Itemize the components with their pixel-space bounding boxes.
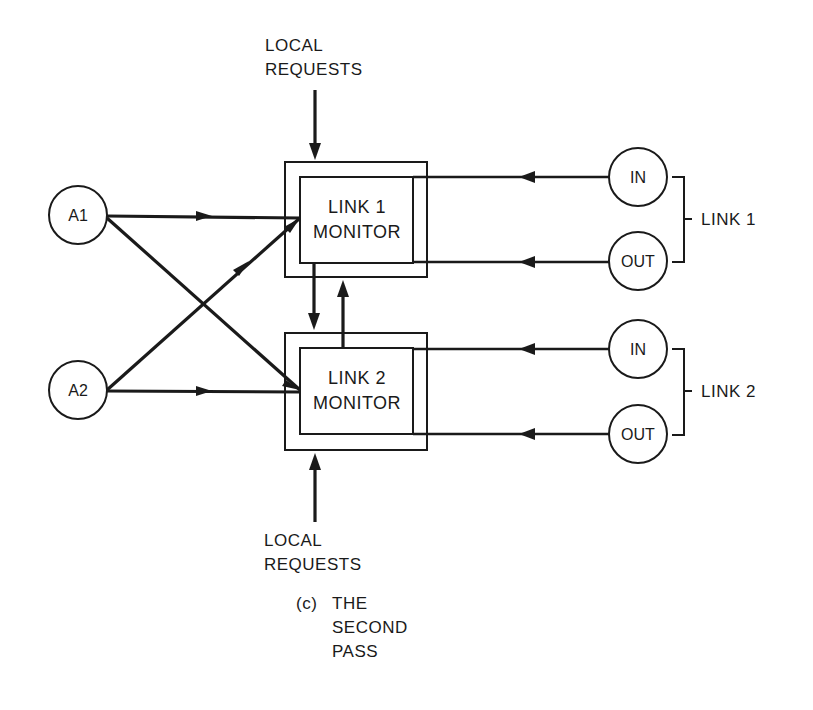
agent-a1-node: A1 <box>49 186 107 244</box>
svg-text:LINK 1: LINK 1 <box>701 210 756 229</box>
svg-text:LOCAL: LOCAL <box>265 36 323 55</box>
svg-text:A1: A1 <box>68 207 88 224</box>
link1-in-node: IN <box>609 148 667 206</box>
svg-text:REQUESTS: REQUESTS <box>264 555 362 574</box>
local-requests-bottom-label: LOCAL REQUESTS <box>264 531 362 574</box>
link2-bracket: LINK 2 <box>672 349 756 435</box>
figure-caption: (c) THE SECOND PASS <box>296 594 408 661</box>
svg-text:LOCAL: LOCAL <box>264 531 322 550</box>
edge-link1-out-to-monitor <box>413 256 609 268</box>
svg-text:PASS: PASS <box>332 642 378 661</box>
link1-bracket: LINK 1 <box>672 177 756 262</box>
local-requests-top-arrow <box>309 90 321 160</box>
svg-text:MONITOR: MONITOR <box>313 393 401 413</box>
svg-text:(c): (c) <box>296 594 317 613</box>
link2-monitor-box: LINK 2 MONITOR <box>285 333 427 450</box>
local-requests-bottom-arrow <box>309 453 321 522</box>
edge-link2-in-to-monitor <box>413 343 609 355</box>
edge-link2-out-to-monitor <box>413 428 609 440</box>
monitor2-to-monitor1-arrow <box>337 280 349 348</box>
link2-out-node: OUT <box>609 405 667 463</box>
svg-text:OUT: OUT <box>621 426 655 443</box>
svg-text:THE: THE <box>332 594 368 613</box>
edge-a1-to-link1 <box>107 211 300 221</box>
svg-text:IN: IN <box>630 169 646 186</box>
link2-in-node: IN <box>609 320 667 378</box>
link-monitor-diagram: LOCAL REQUESTS LINK 1 MONITOR LINK 2 MON… <box>0 0 813 710</box>
svg-text:A2: A2 <box>68 382 88 399</box>
link1-out-node: OUT <box>609 232 667 290</box>
svg-text:IN: IN <box>630 341 646 358</box>
svg-text:LINK 2: LINK 2 <box>328 368 386 388</box>
svg-text:MONITOR: MONITOR <box>313 222 401 242</box>
agent-a2-node: A2 <box>49 361 107 419</box>
local-requests-top-label: LOCAL REQUESTS <box>265 36 363 79</box>
svg-text:SECOND: SECOND <box>332 618 408 637</box>
svg-text:LINK 1: LINK 1 <box>328 197 386 217</box>
monitor1-to-monitor2-arrow <box>308 263 320 330</box>
svg-text:OUT: OUT <box>621 253 655 270</box>
edge-link1-in-to-monitor <box>413 171 609 183</box>
svg-text:LINK 2: LINK 2 <box>701 382 756 401</box>
link1-monitor-box: LINK 1 MONITOR <box>285 162 427 277</box>
edge-a2-to-link2 <box>107 386 300 396</box>
svg-text:REQUESTS: REQUESTS <box>265 60 363 79</box>
